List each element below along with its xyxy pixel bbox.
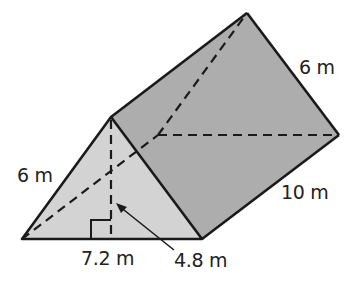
label-length: 10 m [281,181,329,203]
label-back-edge: 6 m [299,56,335,78]
label-height: 4.8 m [174,249,227,271]
prism-diagram [0,0,362,281]
label-slant-left: 6 m [17,164,53,186]
label-base: 7.2 m [81,247,134,269]
